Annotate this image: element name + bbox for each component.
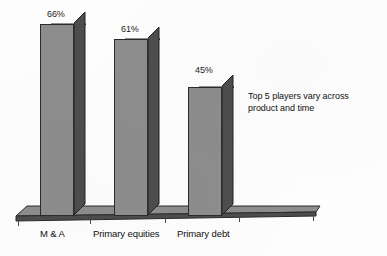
bar-value-label-2: 45% <box>195 65 213 75</box>
bar-value-label-0: 66% <box>47 9 65 19</box>
bar-front-face <box>40 24 74 216</box>
axis-tick-0 <box>18 217 19 226</box>
bar-primary-debt <box>188 87 222 216</box>
bar-front-face <box>188 87 222 216</box>
category-label-primary-equities: Primary equities <box>93 228 160 239</box>
category-label-m-and-a: M & A <box>40 228 65 239</box>
plot-area: 66% 61% 45% M <box>0 0 387 256</box>
chart-annotation-note: Top 5 players vary across product and ti… <box>248 91 380 114</box>
axis-tick-1 <box>90 215 91 224</box>
category-label-primary-debt: Primary debt <box>177 228 230 239</box>
bar-side-face <box>74 12 88 216</box>
axis-tick-4 <box>313 212 314 221</box>
bar-side-face <box>222 75 236 216</box>
bar-value-label-1: 61% <box>121 24 139 34</box>
axis-tick-3 <box>239 213 240 222</box>
bar-side-face <box>148 27 162 216</box>
chart-canvas: 66% 61% 45% M <box>0 0 387 256</box>
bar-front-face <box>114 39 148 216</box>
bar-primary-equities <box>114 39 148 216</box>
bar-m-and-a <box>40 24 74 216</box>
axis-tick-2 <box>165 214 166 223</box>
